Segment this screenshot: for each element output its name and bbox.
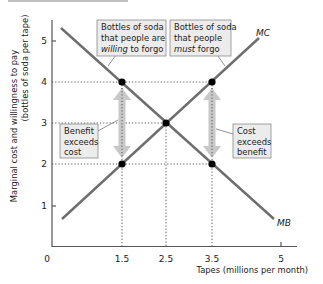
svg-text:Benefit: Benefit	[64, 126, 95, 136]
guide-lines	[52, 82, 212, 246]
point-1.5-2	[118, 160, 125, 167]
svg-text:5: 5	[41, 36, 47, 46]
y-tick-labels: 1 2 3 4 5	[41, 36, 47, 211]
svg-text:1.5: 1.5	[115, 254, 129, 264]
svg-text:willing to forgo: willing to forgo	[101, 44, 163, 54]
annotation-willing: Bottles of soda that people are willing …	[97, 20, 166, 66]
point-3.5-4	[208, 78, 215, 85]
svg-text:5: 5	[278, 254, 284, 264]
svg-text:cost: cost	[64, 147, 82, 157]
chart: Bottles of soda that people are willing …	[0, 0, 323, 284]
svg-text:Marginal cost and willingness: Marginal cost and willingness to pay	[9, 50, 19, 202]
point-2.5-3	[162, 119, 169, 126]
svg-text:0: 0	[44, 254, 50, 264]
annotation-must: Bottles of soda that people must forgo	[170, 20, 237, 66]
mc-label: MC	[256, 28, 271, 38]
svg-text:Bottles of soda: Bottles of soda	[101, 22, 164, 32]
svg-text:4: 4	[41, 77, 47, 87]
annotation-cost-exceeds-benefit: Cost exceeds benefit	[216, 124, 271, 158]
svg-text:3.5: 3.5	[205, 254, 219, 264]
y-axis-title: Marginal cost and willingness to pay (bo…	[9, 15, 30, 203]
point-1.5-4	[118, 78, 125, 85]
svg-text:2.5: 2.5	[159, 254, 173, 264]
svg-text:that people are: that people are	[101, 33, 165, 43]
svg-text:1: 1	[41, 201, 47, 211]
svg-text:3: 3	[41, 118, 47, 128]
x-axis-title: Tapes (millions per month)	[195, 265, 308, 275]
mb-label: MB	[277, 218, 291, 228]
svg-text:benefit: benefit	[237, 147, 267, 157]
svg-text:exceeds: exceeds	[237, 137, 271, 147]
point-3.5-2	[208, 160, 215, 167]
annotation-benefit-exceeds-cost: Benefit exceeds cost	[60, 120, 118, 158]
svg-text:must forgo: must forgo	[174, 44, 220, 54]
svg-text:that people: that people	[174, 33, 222, 43]
svg-text:(bottles of soda per tape): (bottles of soda per tape)	[20, 15, 30, 122]
svg-text:Bottles of soda: Bottles of soda	[174, 22, 237, 32]
svg-text:exceeds: exceeds	[64, 137, 98, 147]
x-tick-labels: 0 1.5 2.5 3.5 5	[44, 254, 284, 264]
svg-text:Cost: Cost	[237, 126, 256, 136]
svg-text:2: 2	[41, 159, 47, 169]
